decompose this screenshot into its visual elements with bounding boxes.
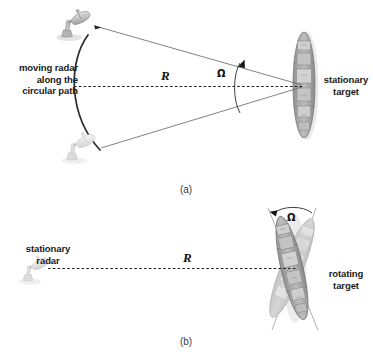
panel-a-beam-upper	[95, 26, 302, 85]
panel-a-range-symbol: R	[161, 68, 170, 84]
panel-b-radar-label: stationary radar	[9, 243, 87, 266]
panel-a-angle-symbol: Ω	[217, 68, 226, 79]
panel-b-graphics	[19, 207, 323, 330]
panel-b-angle-symbol: Ω	[287, 212, 296, 223]
panel-a-beam-lower	[101, 87, 302, 148]
panel-a-radar-label: moving radar along the circular path	[4, 62, 78, 97]
panel-a-beam-arrowhead-icon	[94, 25, 102, 29]
panel-b-range-symbol: R	[183, 250, 192, 266]
panel-a-circular-path-arc	[74, 35, 100, 150]
figure-canvas	[0, 0, 373, 356]
panel-b-target-label: rotating target	[320, 268, 372, 291]
panel-a-graphics	[57, 9, 319, 164]
radar-geometry-figure: moving radar along the circular path sta…	[0, 0, 373, 356]
panel-a-angle-arc	[235, 63, 240, 113]
panel-a-caption: (a)	[156, 184, 216, 195]
panel-a-radar-top-icon	[57, 9, 90, 41]
panel-a-target-label: stationary target	[320, 74, 372, 97]
panel-b-caption: (b)	[156, 336, 216, 347]
panel-a-radar-bottom-icon	[62, 132, 95, 164]
